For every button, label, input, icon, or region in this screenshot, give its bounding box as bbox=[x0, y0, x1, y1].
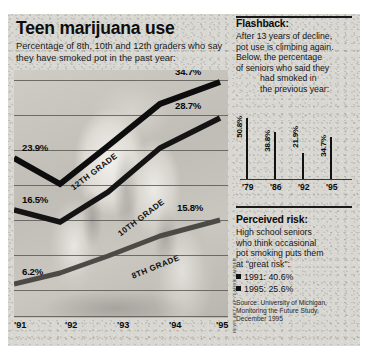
flashback-title: Flashback: bbox=[236, 18, 352, 29]
x-tick-1995: '95 bbox=[216, 320, 228, 330]
source-line-3: December 1995 bbox=[236, 315, 283, 322]
bar-chart-baseline bbox=[240, 179, 352, 180]
bar-value-1979: 50.8% bbox=[235, 116, 244, 138]
bar-1992 bbox=[302, 153, 304, 179]
x-tick-1992: '92 bbox=[65, 320, 77, 330]
risk-body: High school seniors who think occasional… bbox=[236, 227, 352, 269]
bar-x-tick-1995: '95 bbox=[326, 182, 338, 192]
bar-value-1992: 21.9% bbox=[291, 126, 300, 148]
bar-1995 bbox=[330, 137, 332, 179]
bar-1979 bbox=[246, 118, 248, 179]
risk-bullet-1995: 1995: 25.6% bbox=[236, 284, 352, 295]
source-line-1: Source: University of Michigan, bbox=[236, 299, 327, 306]
flashback-line-6: the previous year: bbox=[236, 84, 352, 95]
page-subtitle: Percentage of 8th, 10th and 12th graders… bbox=[16, 41, 224, 64]
photo-credit: NEWS ART / AP / EARNIE LANDER bbox=[232, 258, 237, 333]
infographic-page: Teen marijuana use Percentage of 8th, 10… bbox=[0, 0, 368, 358]
bar-1986 bbox=[274, 132, 276, 179]
flashback-line-4: of seniors who said they bbox=[236, 63, 329, 73]
flashback-line-1: After 13 years of decline, bbox=[236, 31, 332, 41]
flashback-line-2: pot use is climbing again. bbox=[236, 42, 334, 52]
flashback-bar-chart: 50.8% 38.8% 21.9% 34.7% bbox=[240, 118, 352, 180]
flashback-line-3: Below, the percentage bbox=[236, 52, 322, 62]
value-label-12th-end: 34.7% bbox=[175, 70, 201, 77]
line-chart: 23.9% 16.5% 6.2% 34.7% 28.7% 15.8% 12TH … bbox=[14, 70, 228, 318]
value-label-8th-start: 6.2% bbox=[22, 266, 43, 277]
sidebar: Flashback: After 13 years of decline, po… bbox=[236, 18, 352, 344]
flashback-line-5: had smoked in bbox=[236, 73, 352, 84]
x-axis: '91 '92 '93 '94 '95 bbox=[14, 320, 228, 338]
x-tick-1991: '91 bbox=[14, 320, 26, 330]
flashback-section: Flashback: After 13 years of decline, po… bbox=[236, 18, 352, 95]
bar-value-1986: 38.8% bbox=[263, 130, 272, 152]
bar-x-tick-1992: '92 bbox=[298, 182, 310, 192]
risk-bullet-1991: 1991: 40.6% bbox=[236, 272, 352, 283]
header-block: Teen marijuana use Percentage of 8th, 10… bbox=[16, 18, 228, 64]
page-title: Teen marijuana use bbox=[16, 18, 228, 38]
value-label-12th-start: 23.9% bbox=[22, 142, 48, 153]
risk-line-1: High school seniors bbox=[236, 227, 312, 237]
risk-title: Perceived risk: bbox=[236, 214, 352, 225]
bar-x-tick-1979: '79 bbox=[242, 182, 254, 192]
risk-section: Perceived risk: High school seniors who … bbox=[236, 214, 352, 323]
risk-line-2: who think occasional bbox=[236, 238, 316, 248]
risk-line-4: at "great risk": bbox=[236, 259, 290, 269]
value-label-10th-end: 28.7% bbox=[175, 100, 201, 111]
risk-bullet-1991-text: 1991: 40.6% bbox=[244, 272, 293, 282]
value-label-8th-end: 15.8% bbox=[177, 202, 203, 213]
x-tick-1993: '93 bbox=[117, 320, 129, 330]
bar-x-tick-1986: '86 bbox=[270, 182, 282, 192]
flashback-body: After 13 years of decline, pot use is cl… bbox=[236, 31, 352, 95]
value-label-10th-start: 16.5% bbox=[22, 194, 48, 205]
risk-line-3: pot smoking puts them bbox=[236, 248, 323, 258]
risk-bullets: 1991: 40.6% 1995: 25.6% bbox=[236, 272, 352, 295]
risk-bullet-1995-text: 1995: 25.6% bbox=[244, 284, 293, 294]
source-note: Source: University of Michigan, Monitori… bbox=[236, 299, 352, 323]
bar-value-1995: 34.7% bbox=[319, 135, 328, 157]
x-tick-1994: '94 bbox=[169, 320, 181, 330]
source-line-2: Monitoring the Future Study, bbox=[236, 307, 319, 314]
